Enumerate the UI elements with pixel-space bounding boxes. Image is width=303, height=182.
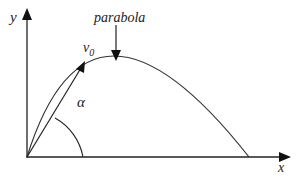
velocity-label: v0 [83,40,94,58]
parabola-label: parabola [93,10,145,25]
parabola-curve [27,56,249,157]
angle-label: α [77,94,86,110]
projectile-diagram: y x parabola v0 α [0,0,303,182]
velocity-arrowhead-icon [76,61,85,73]
y-axis-label: y [8,9,17,25]
angle-arc [55,118,83,157]
velocity-subscript: 0 [89,47,94,58]
x-axis-label: x [277,160,285,175]
velocity-vector-line [27,68,81,157]
y-axis-arrowhead-icon [22,8,32,20]
